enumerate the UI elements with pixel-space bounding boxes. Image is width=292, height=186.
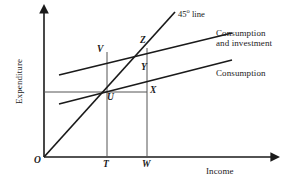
forty-five-value: 45 [178, 9, 187, 19]
forty-five-suffix: line [190, 9, 205, 19]
point-label-z: Z [140, 35, 146, 46]
point-label-v: V [97, 44, 103, 55]
keynesian-cross-figure: Expenditure Income O 45o line Consumptio… [0, 0, 292, 186]
consumption-and-investment-label: Consumption and investment [216, 28, 272, 48]
consumption-and-investment-label-line1: Consumption [216, 28, 272, 38]
tick-label-w: W [142, 159, 150, 170]
point-label-x: X [150, 85, 156, 96]
point-label-y: Y [141, 62, 147, 73]
x-axis-title: Income [206, 166, 234, 176]
forty-five-degree-line-label: 45o line [178, 10, 205, 20]
y-axis-title: Expenditure [14, 59, 24, 104]
tick-label-t: T [103, 159, 109, 170]
consumption-label: Consumption [216, 68, 266, 78]
origin-label: O [34, 155, 41, 166]
consumption-and-investment-label-line2: and investment [216, 38, 272, 48]
point-label-u: U [107, 92, 114, 103]
